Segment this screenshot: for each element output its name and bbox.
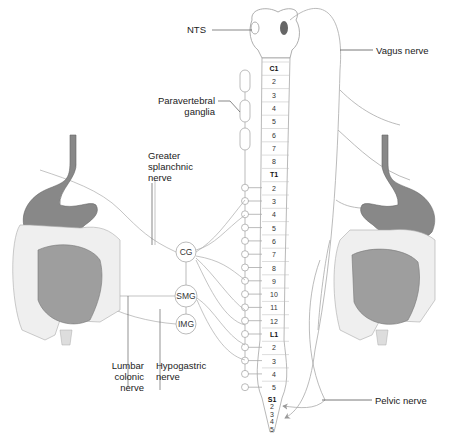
svg-text:5: 5	[270, 426, 274, 433]
greater-label-line1: Greater	[148, 150, 180, 161]
svg-text:2: 2	[270, 403, 274, 410]
svg-text:C1: C1	[270, 65, 279, 72]
pelvic-nerve-label: Pelvic nerve	[375, 395, 427, 406]
svg-text:7: 7	[272, 145, 276, 152]
dorsal-motor-nucleus	[280, 21, 288, 35]
svg-text:6: 6	[272, 132, 276, 139]
svg-text:5: 5	[272, 225, 276, 232]
svg-text:IMG: IMG	[178, 319, 194, 329]
hypogastric-label-line1: Hypogastric	[156, 360, 206, 371]
vagus-nerve-label: Vagus nerve	[376, 45, 429, 56]
paravertebral-label-line2: ganglia	[184, 106, 215, 117]
hypogastric-label-line2: nerve	[156, 371, 180, 382]
svg-text:10: 10	[270, 291, 278, 298]
svg-text:9: 9	[272, 278, 276, 285]
lumbar-label-line3: nerve	[120, 382, 144, 393]
svg-text:2: 2	[272, 78, 276, 85]
svg-text:S1: S1	[268, 396, 277, 403]
prevertebral-ganglia: CG SMG IMG	[175, 242, 197, 334]
lumbar-label-line1: Lumbar	[112, 360, 144, 371]
svg-text:3: 3	[270, 411, 274, 418]
svg-text:T1: T1	[270, 171, 278, 178]
svg-text:3: 3	[272, 198, 276, 205]
gi-tract-left	[13, 135, 120, 345]
gi-tract-right	[334, 135, 435, 345]
svg-text:CG: CG	[180, 247, 193, 257]
svg-text:11: 11	[270, 304, 277, 311]
nts-label: NTS	[187, 24, 206, 35]
svg-text:5: 5	[272, 118, 276, 125]
svg-text:4: 4	[272, 371, 276, 378]
svg-text:2: 2	[272, 185, 276, 192]
svg-text:SMG: SMG	[176, 291, 195, 301]
paravertebral-label-line1: Paravertebral	[158, 95, 215, 106]
nts-nucleus	[251, 22, 259, 34]
svg-text:6: 6	[272, 238, 276, 245]
svg-text:7: 7	[272, 251, 276, 258]
svg-text:5: 5	[272, 384, 276, 391]
svg-text:4: 4	[272, 211, 276, 218]
svg-text:2: 2	[272, 344, 276, 351]
sympathetic-chain	[240, 70, 262, 391]
svg-text:8: 8	[272, 158, 276, 165]
hypogastric-nerve-label: Hypogastric nerve	[156, 360, 206, 382]
lumbar-colonic-nerve-label: Lumbar colonic nerve	[92, 360, 144, 393]
svg-text:4: 4	[272, 105, 276, 112]
autonomic-gut-innervation-diagram: C12345678T123456789101112L12345S12345 CG…	[0, 0, 451, 442]
greater-label-line3: nerve	[148, 172, 172, 183]
svg-text:L1: L1	[270, 331, 278, 338]
greater-splanchnic-nerve-label: Greater splanchnic nerve	[148, 150, 193, 183]
lumbar-label-line2: colonic	[114, 371, 144, 382]
svg-text:8: 8	[272, 265, 276, 272]
svg-text:12: 12	[270, 318, 278, 325]
paravertebral-ganglia-label: Paravertebral ganglia	[147, 95, 215, 117]
svg-text:3: 3	[272, 358, 276, 365]
greater-label-line2: splanchnic	[148, 161, 193, 172]
svg-text:4: 4	[270, 418, 274, 425]
brainstem	[250, 9, 299, 58]
svg-text:3: 3	[272, 92, 276, 99]
